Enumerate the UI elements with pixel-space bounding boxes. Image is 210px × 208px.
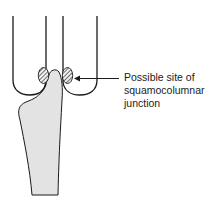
- annotation-line-3: junction: [124, 97, 205, 110]
- cervix-stalk: [19, 70, 63, 195]
- annotation-line-1: Possible site of: [124, 71, 205, 84]
- right-hatched-junction-site: [62, 68, 72, 84]
- annotation-line-2: squamocolumnar: [124, 84, 205, 97]
- junction-annotation: Possible site of squamocolumnar junction: [124, 71, 205, 110]
- left-hatched-junction-site: [38, 68, 48, 84]
